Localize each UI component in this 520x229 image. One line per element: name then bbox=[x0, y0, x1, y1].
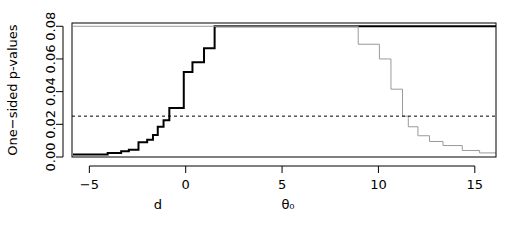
y-axis: 0.000.020.040.060.08 bbox=[43, 12, 63, 172]
x-tick-label: 0 bbox=[182, 177, 190, 192]
y-tick-label: 0.04 bbox=[43, 77, 58, 106]
x-axis-title-right: θ₀ bbox=[281, 197, 294, 212]
x-axis: −5051015 bbox=[80, 166, 483, 192]
y-tick-label: 0.02 bbox=[43, 110, 58, 139]
y-axis-title: One−sided p-values bbox=[5, 24, 20, 155]
x-axis-title-left: d bbox=[154, 197, 162, 212]
p-value-step-plot: −5051015 0.000.020.040.060.08 One−sided … bbox=[0, 0, 520, 229]
y-tick-label: 0.06 bbox=[43, 44, 58, 73]
x-tick-label: 10 bbox=[370, 177, 387, 192]
x-tick-label: 5 bbox=[278, 177, 286, 192]
y-tick-label: 0.00 bbox=[43, 143, 58, 172]
plot-panel-background bbox=[72, 23, 496, 157]
x-tick-label: −5 bbox=[80, 177, 99, 192]
figure-container: −5051015 0.000.020.040.060.08 One−sided … bbox=[0, 0, 520, 229]
x-tick-label: 15 bbox=[467, 177, 484, 192]
y-tick-label: 0.08 bbox=[43, 12, 58, 41]
